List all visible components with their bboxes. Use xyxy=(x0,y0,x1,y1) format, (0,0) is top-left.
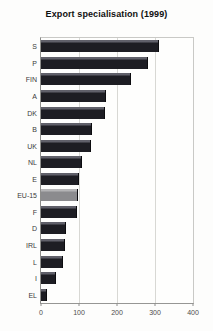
category-label-S: S xyxy=(0,43,37,50)
bar-row-S: S xyxy=(41,40,193,52)
x-axis: 0100200300400 xyxy=(41,303,193,325)
bar-row-FIN: FIN xyxy=(41,73,193,85)
x-tick-label-400: 400 xyxy=(187,309,199,316)
x-tick-label-0: 0 xyxy=(39,309,43,316)
bar-row-D: D xyxy=(41,222,193,234)
bar-row-A: A xyxy=(41,90,193,102)
category-label-A: A xyxy=(0,92,37,99)
bar-F xyxy=(41,206,77,218)
category-label-D: D xyxy=(0,225,37,232)
category-label-IRL: IRL xyxy=(0,242,37,249)
bar-DK xyxy=(41,107,105,119)
category-label-F: F xyxy=(0,208,37,215)
x-tick-0 xyxy=(41,303,42,306)
category-label-B: B xyxy=(0,126,37,133)
plot-area: SPFINADKBUKNLEEU-15FDIRLLIEL 01002003004… xyxy=(40,37,194,304)
bar-D xyxy=(41,222,66,234)
bar-FIN xyxy=(41,73,131,85)
bar-row-E: E xyxy=(41,173,193,185)
bar-A xyxy=(41,90,106,102)
bar-row-EU-15: EU-15 xyxy=(41,189,193,201)
chart-title: Export specialisation (1999) xyxy=(0,9,213,19)
bar-row-IRL: IRL xyxy=(41,239,193,251)
x-tick-400 xyxy=(193,303,194,306)
x-tick-label-300: 300 xyxy=(149,309,161,316)
bar-NL xyxy=(41,156,82,168)
bar-L xyxy=(41,256,63,268)
bar-EU-15 xyxy=(41,189,78,201)
bar-P xyxy=(41,57,148,69)
category-label-E: E xyxy=(0,175,37,182)
category-label-I: I xyxy=(0,275,37,282)
x-tick-300 xyxy=(155,303,156,306)
bar-EL xyxy=(41,289,47,301)
x-tick-100 xyxy=(79,303,80,306)
category-label-P: P xyxy=(0,59,37,66)
bar-B xyxy=(41,123,92,135)
category-label-UK: UK xyxy=(0,142,37,149)
category-label-DK: DK xyxy=(0,109,37,116)
bar-I xyxy=(41,272,56,284)
bar-S xyxy=(41,40,159,52)
bar-row-L: L xyxy=(41,256,193,268)
bar-rows: SPFINADKBUKNLEEU-15FDIRLLIEL xyxy=(41,38,193,303)
x-tick-label-200: 200 xyxy=(111,309,123,316)
bar-row-P: P xyxy=(41,57,193,69)
bar-E xyxy=(41,173,79,185)
x-tick-label-100: 100 xyxy=(73,309,85,316)
bar-row-UK: UK xyxy=(41,140,193,152)
category-label-FIN: FIN xyxy=(0,76,37,83)
bar-row-F: F xyxy=(41,206,193,218)
bar-UK xyxy=(41,140,91,152)
bar-row-DK: DK xyxy=(41,107,193,119)
bar-row-EL: EL xyxy=(41,289,193,301)
category-label-L: L xyxy=(0,258,37,265)
category-label-NL: NL xyxy=(0,159,37,166)
bar-row-I: I xyxy=(41,272,193,284)
bar-row-NL: NL xyxy=(41,156,193,168)
export-specialisation-chart: Export specialisation (1999) SPFINADKBUK… xyxy=(0,0,213,331)
category-label-EU-15: EU-15 xyxy=(0,192,37,199)
category-label-EL: EL xyxy=(0,291,37,298)
x-tick-200 xyxy=(117,303,118,306)
bar-row-B: B xyxy=(41,123,193,135)
bar-IRL xyxy=(41,239,65,251)
